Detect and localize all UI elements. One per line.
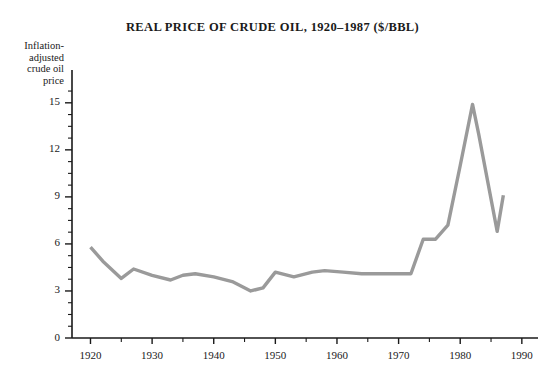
- x-tick-label: 1920: [68, 349, 112, 361]
- x-tick-label: 1950: [253, 349, 297, 361]
- plot-area: [0, 0, 545, 372]
- y-tick-label: 9: [32, 189, 60, 201]
- x-tick-label: 1990: [500, 349, 544, 361]
- x-tick-label: 1960: [315, 349, 359, 361]
- y-tick-label: 6: [32, 236, 60, 248]
- chart-figure: REAL PRICE OF CRUDE OIL, 1920–1987 ($/BB…: [0, 0, 545, 372]
- y-tick-label: 0: [32, 331, 60, 343]
- x-tick-label: 1970: [377, 349, 421, 361]
- x-tick-label: 1980: [438, 349, 482, 361]
- data-series-line: [90, 104, 503, 291]
- y-tick-label: 3: [32, 283, 60, 295]
- y-tick-label: 15: [32, 95, 60, 107]
- y-tick-label: 12: [32, 142, 60, 154]
- x-tick-label: 1940: [192, 349, 236, 361]
- x-tick-label: 1930: [130, 349, 174, 361]
